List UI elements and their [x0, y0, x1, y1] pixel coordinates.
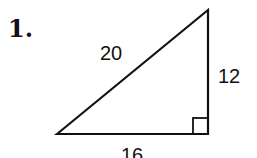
horizontal-leg-label: 16 [121, 144, 143, 158]
right-angle-marker [193, 118, 208, 134]
triangle [57, 10, 208, 134]
vertical-leg-label: 12 [218, 65, 240, 88]
hypotenuse-label: 20 [100, 42, 122, 65]
